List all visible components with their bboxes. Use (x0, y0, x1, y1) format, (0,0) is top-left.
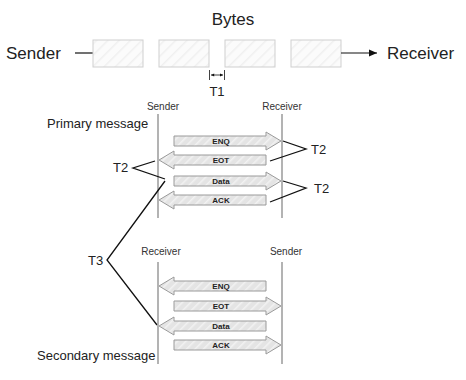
secondary-arrow-data: Data (159, 317, 266, 335)
serial-protocol-diagram: Bytes Sender Receiver T1 Sender Receiver… (0, 0, 466, 380)
svg-text:EOT: EOT (213, 156, 230, 165)
secondary-arrow-enq: ENQ (159, 277, 266, 295)
svg-text:Data: Data (212, 177, 230, 186)
secondary-arrow-eot: EOT (174, 297, 281, 315)
primary-message-title: Primary message (47, 116, 148, 131)
secondary-message-section: Receiver Sender ENQ EOT Data ACK Seconda… (37, 246, 303, 364)
svg-text:EOT: EOT (213, 302, 230, 311)
byte-box-2 (159, 40, 209, 67)
secondary-receiver-label: Receiver (141, 246, 181, 257)
secondary-message-title: Secondary message (37, 348, 156, 363)
stream-receiver-label: Receiver (387, 44, 454, 63)
svg-text:ENQ: ENQ (212, 137, 229, 146)
bytes-title: Bytes (212, 10, 255, 29)
t2-label-left: T2 (113, 160, 128, 175)
t2-label-right-top: T2 (311, 142, 326, 157)
secondary-sender-label: Sender (270, 246, 303, 257)
t2-bracket-left (133, 161, 165, 179)
byte-box-4 (291, 40, 341, 67)
t1-gap-indicator (210, 70, 225, 80)
svg-text:ACK: ACK (212, 341, 230, 350)
byte-box-1 (93, 40, 143, 67)
t2-label-right-bottom: T2 (314, 181, 329, 196)
svg-text:ACK: ACK (212, 196, 230, 205)
primary-arrow-eot: EOT (159, 151, 266, 169)
primary-arrow-enq: ENQ (174, 132, 281, 150)
byte-stream-section: Bytes Sender Receiver T1 (6, 10, 454, 99)
secondary-arrow-ack: ACK (174, 336, 281, 354)
primary-arrow-ack: ACK (159, 191, 266, 209)
t1-label: T1 (209, 84, 224, 99)
svg-text:ENQ: ENQ (212, 282, 229, 291)
t3-label: T3 (88, 253, 103, 268)
primary-sender-label: Sender (147, 101, 180, 112)
primary-receiver-label: Receiver (262, 101, 302, 112)
primary-message-section: Sender Receiver Primary message ENQ EOT … (47, 101, 329, 218)
byte-box-3 (225, 40, 275, 67)
primary-arrow-data: Data (174, 172, 281, 190)
stream-sender-label: Sender (6, 44, 61, 63)
svg-text:Data: Data (212, 322, 230, 331)
